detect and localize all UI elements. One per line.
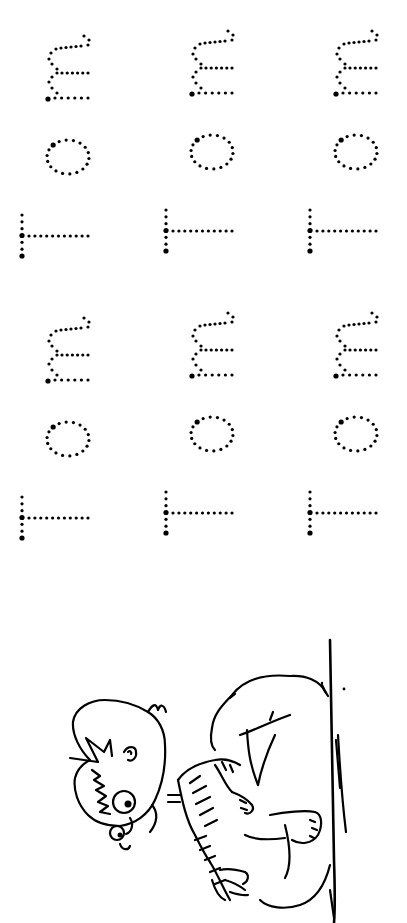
dotted-letter-t [163,208,233,253]
dotted-letter-o [45,420,90,457]
dotted-letter-m [45,316,90,383]
dotted-letter-o [333,133,378,170]
dotted-letter-m [189,29,234,96]
dotted-word-tom [144,277,254,537]
dotted-letter-t [19,495,89,540]
striped-shirt [178,759,240,900]
dotted-letter-t [307,490,377,535]
dotted-letter-o [189,133,234,170]
dotted-letter-o [189,415,234,452]
dotted-word-tom [288,277,398,537]
dotted-letter-t [19,213,89,258]
dotted-word-tom [288,0,398,255]
neck [168,795,180,802]
dotted-letter-m [333,29,378,96]
dotted-word-tom [144,0,254,255]
dotted-letter-m [45,34,90,101]
dotted-word-tom [0,282,110,542]
dotted-letter-m [189,311,234,378]
tracing-worksheet: Tom [0,0,407,923]
dotted-letter-t [163,490,233,535]
boy-sitting-illustration [0,600,407,923]
dotted-letter-o [45,138,90,175]
dotted-word-tom [0,0,110,260]
body-outline [211,676,330,908]
boy-head [70,700,166,849]
dotted-letter-o [333,415,378,452]
dotted-letter-m [333,311,378,378]
dotted-letter-t [307,208,377,253]
